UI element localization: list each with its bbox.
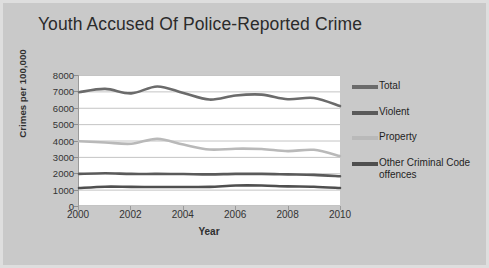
legend-item[interactable]: Property <box>352 131 487 144</box>
series-line <box>79 185 340 188</box>
x-tick-mark <box>130 206 131 210</box>
legend-label: Property <box>379 131 483 144</box>
x-tick-mark <box>235 206 236 210</box>
x-tick-label: 2000 <box>58 209 98 220</box>
legend-label: Violent <box>379 106 483 119</box>
series-line <box>79 173 340 176</box>
x-axis-title: Year <box>78 226 340 237</box>
x-tick-label: 2008 <box>268 209 308 220</box>
screenshot-root: Youth Accused Of Police-Reported Crime C… <box>0 0 489 268</box>
x-tick-label: 2002 <box>110 209 150 220</box>
legend-item[interactable]: Total <box>352 80 487 93</box>
x-tick-mark <box>78 206 79 210</box>
y-axis-tick-marks <box>0 75 80 206</box>
legend-color-swatch <box>352 162 378 166</box>
legend-color-swatch <box>352 136 378 140</box>
series-line <box>79 86 340 106</box>
x-tick-mark <box>183 206 184 210</box>
legend-label: Other Criminal Code offences <box>379 157 483 182</box>
chart-title: Youth Accused Of Police-Reported Crime <box>0 14 400 35</box>
data-series-lines <box>79 75 340 206</box>
plot-area <box>78 75 340 206</box>
legend-item[interactable]: Other Criminal Code offences <box>352 157 487 182</box>
x-tick-label: 2004 <box>163 209 203 220</box>
legend-label: Total <box>379 80 483 93</box>
legend-color-swatch <box>352 111 378 115</box>
line-chart-figure: Youth Accused Of Police-Reported Crime C… <box>0 0 489 268</box>
series-line <box>79 139 340 156</box>
legend-item[interactable]: Violent <box>352 106 487 119</box>
x-tick-mark <box>340 206 341 210</box>
x-tick-label: 2010 <box>320 209 360 220</box>
x-tick-mark <box>288 206 289 210</box>
chart-legend: TotalViolentPropertyOther Criminal Code … <box>352 80 487 195</box>
x-tick-label: 2006 <box>215 209 255 220</box>
legend-color-swatch <box>352 85 378 89</box>
